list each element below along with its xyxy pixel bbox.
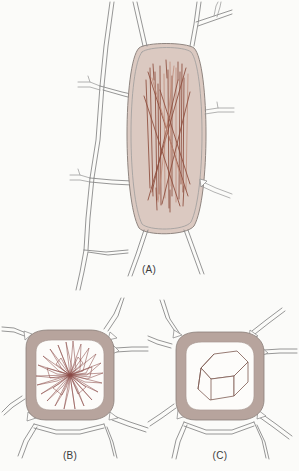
panel-b-label: (B) xyxy=(63,450,77,461)
panel-c-label: (C) xyxy=(213,450,228,461)
botanical-figure: (A) xyxy=(0,0,299,471)
figure-container: (A) xyxy=(0,0,299,471)
panel-a-label: (A) xyxy=(142,264,156,275)
